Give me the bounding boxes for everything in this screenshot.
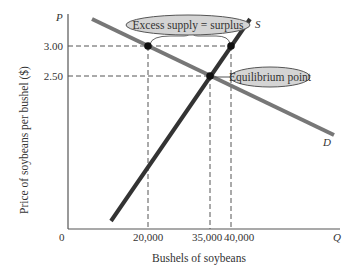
- x-axis-title: Bushels of soybeans: [152, 252, 246, 265]
- equilibrium-label: Equilibrium point: [229, 71, 312, 84]
- x-tick-20000: 20,000: [133, 231, 164, 243]
- q-axis-symbol: Q: [333, 231, 341, 243]
- supply-point-3: [227, 42, 235, 50]
- equilibrium-point: [206, 72, 214, 80]
- surplus-label: Excess supply = surplus: [133, 19, 244, 32]
- x-tick-35000: 35,000: [192, 231, 223, 243]
- origin-label: 0: [59, 231, 65, 243]
- supply-label: S: [255, 18, 261, 30]
- demand-label: D: [322, 136, 331, 148]
- y-axis-title: Price of soybeans per bushel ($): [18, 66, 31, 214]
- demand-point-3: [144, 42, 152, 50]
- x-tick-40000: 40,000: [224, 231, 255, 243]
- y-tick-300: 3.00: [44, 40, 64, 52]
- y-tick-250: 2.50: [44, 70, 64, 82]
- supply-demand-chart: Excess supply = surplus Equilibrium poin…: [0, 0, 360, 269]
- p-axis-symbol: P: [55, 11, 63, 23]
